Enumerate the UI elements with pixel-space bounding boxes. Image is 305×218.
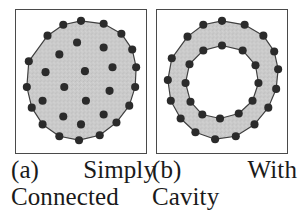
- caption-b-line-1: (b) With: [152, 156, 297, 183]
- captions-row: (a) Simply Connected (b) With Cavity: [0, 156, 305, 218]
- caption-a-word-1: Simply: [83, 156, 156, 183]
- caption-a-line-1: (a) Simply: [11, 156, 156, 183]
- caption-a-tag: (a): [11, 156, 39, 183]
- caption-with-cavity: (b) With Cavity: [152, 156, 297, 210]
- caption-simply-connected: (a) Simply Connected: [11, 156, 156, 210]
- panel-with-cavity: [156, 9, 288, 154]
- with-cavity-diagram: [157, 10, 287, 153]
- panels-row: [0, 0, 305, 158]
- panel-simply-connected: [15, 9, 147, 154]
- figure-container: (a) Simply Connected (b) With Cavity: [0, 0, 305, 218]
- caption-b-line-2: Cavity: [152, 183, 297, 210]
- caption-b-tag: (b): [152, 156, 181, 183]
- caption-b-word-1: With: [248, 156, 297, 183]
- simply-connected-diagram: [16, 10, 146, 153]
- caption-a-line-2: Connected: [11, 183, 156, 210]
